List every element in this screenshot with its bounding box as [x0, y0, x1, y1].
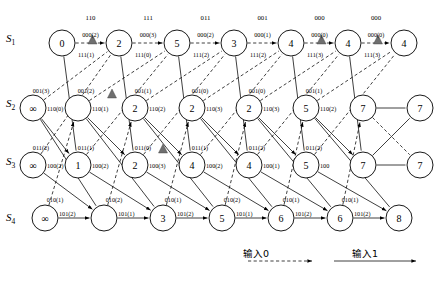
edge-label-row2-upper: 001(0)	[192, 87, 209, 95]
stage-received-bits: 110	[86, 14, 97, 21]
trellis-node: 2	[236, 95, 262, 121]
trellis-node: 7	[350, 95, 376, 121]
trellis-node: 7	[407, 95, 433, 121]
edge-label-row1-lower: 111(3)	[364, 51, 380, 59]
node-metric-value: 3	[161, 213, 166, 224]
edge-label-row1-upper: 000(2)	[197, 31, 214, 39]
survivor-path-marker	[108, 89, 117, 98]
trellis-node: ∞	[20, 95, 46, 121]
legend-input0-label: 输入0	[243, 246, 269, 260]
edge-label-row4-lower: 101(2)	[295, 210, 312, 218]
edge-label-row3-lower: 100(3)	[149, 162, 166, 170]
edge-label-row1-upper: 000(3)	[140, 31, 157, 39]
edge-label-row4-upper: 010(1)	[47, 196, 64, 204]
trellis-node: 5	[293, 95, 319, 121]
node-metric-value: 4	[346, 38, 351, 49]
edge-label-row3-lower: 100	[320, 162, 329, 169]
edge-label-row1-upper: 000(0)	[311, 31, 328, 39]
node-metric-value: 2	[117, 38, 122, 49]
edge-label-row2-upper: 001(2)	[78, 87, 95, 95]
trellis-node: 2	[179, 95, 205, 121]
edge-label-row3-upper: 011(2)	[306, 144, 322, 152]
trellis-node: 4	[236, 152, 262, 178]
node-metric-value: 5	[175, 38, 180, 49]
trellis-edges	[40, 43, 409, 218]
node-metric-value: 4	[402, 38, 407, 49]
edge-label-row4-lower: 101(2)	[177, 210, 194, 218]
edge-label-row3-upper: 011(1)	[192, 144, 208, 152]
stage-received-bits: 000	[314, 14, 325, 21]
trellis-node: 2	[106, 30, 132, 56]
trellis-edge-input0	[44, 52, 108, 100]
edge-label-row1-lower: 111(3)	[307, 51, 323, 59]
trellis-node: ∞	[20, 152, 46, 178]
node-metric-value: 4	[289, 38, 294, 49]
edge-label-row1-upper: 000(2)	[82, 31, 99, 39]
trellis-node: 4	[179, 152, 205, 178]
trellis-edge-input1	[44, 173, 93, 209]
trellis-node: 3	[150, 205, 176, 231]
node-metric-value: ∞	[29, 103, 36, 114]
edge-label-row2-upper: 001(1)	[306, 87, 323, 95]
edge-label-row4-lower: 101(2)	[59, 210, 76, 218]
edge-label-row3-upper: 011(2)	[33, 144, 49, 152]
trellis-edge-input0	[203, 51, 279, 101]
trellis-node: 6	[268, 205, 294, 231]
edge-label-row2-lower: 110(3)	[263, 105, 279, 113]
trellis-edge-input1	[90, 172, 151, 210]
trellis-node: 2	[122, 152, 148, 178]
trellis-edge-input0	[146, 51, 222, 101]
trellis-node: 0	[49, 30, 75, 56]
trellis-edge-input0	[317, 51, 392, 101]
edge-label-row3-upper: 011(1)	[78, 144, 94, 152]
trellis-node: 4	[335, 30, 361, 56]
stage-received-bits: 111	[143, 14, 153, 21]
node-metric-value: 2	[190, 103, 195, 114]
edge-label-row1-upper: 000(1)	[254, 31, 271, 39]
trellis-node: 5	[209, 205, 235, 231]
stage-received-bits: 000	[371, 14, 382, 21]
edge-label-row2-upper: 001(0)	[249, 87, 266, 95]
edge-label-row4-upper: 010(1)	[342, 196, 359, 204]
edge-label-row3-upper: 011(0)	[135, 144, 151, 152]
trellis-diagram-figure: S1 S2 S3 S4 0253444∞222577∞1244577∞35668…	[0, 0, 437, 286]
trellis-node: 7	[350, 152, 376, 178]
edge-label-row2-lower: 110(2)	[320, 105, 336, 113]
trellis-node: 3	[221, 30, 247, 56]
edge-label-row3-upper: 011(2)	[249, 144, 265, 152]
trellis-node	[65, 95, 91, 121]
edge-label-row3-lower: 100(2)	[47, 162, 64, 170]
stage-top-labels: 110111011001000000	[86, 14, 382, 21]
node-metric-value: 4	[247, 160, 252, 171]
survivor-path-marker	[159, 144, 168, 153]
trellis-edge-input0	[89, 51, 165, 101]
edge-label-row3-lower: 100(1)	[263, 162, 280, 170]
edge-label-row1-upper: 000(0)	[368, 31, 385, 39]
node-metric-value: 3	[232, 38, 237, 49]
edge-label-row1-lower: 111(1)	[78, 51, 94, 59]
trellis-edge-input1	[147, 172, 210, 211]
edge-label-row2-upper: 001(1)	[135, 87, 152, 95]
trellis-edge-input0	[373, 118, 410, 155]
node-metric-value: 2	[133, 103, 138, 114]
edge-label-row2-lower: 110(0)	[47, 105, 63, 113]
node-metric-value: 7	[361, 160, 366, 171]
legend-input1-label: 输入1	[352, 246, 378, 260]
node-metric-value: 7	[418, 103, 423, 114]
edge-label-row1-lower: 111(2)	[193, 51, 209, 59]
node-metric-value: 5	[304, 160, 309, 171]
trellis-node: 6	[327, 205, 353, 231]
node-metric-value: 8	[397, 213, 402, 224]
node-metric-value: ∞	[41, 213, 48, 224]
edge-label-row2-upper: 001(3)	[33, 87, 50, 95]
trellis-node: 8	[386, 205, 412, 231]
trellis-node: ∞	[32, 205, 58, 231]
trellis-edge-input0	[260, 51, 336, 101]
node-metric-value: 6	[279, 213, 284, 224]
node-metric-value: 4	[190, 160, 195, 171]
node-metric-value: 1	[76, 160, 81, 171]
node-metric-value: 7	[418, 160, 423, 171]
trellis-node	[91, 205, 117, 231]
edge-label-row2-lower: 110(1)	[92, 105, 108, 113]
trellis-node: 2	[122, 95, 148, 121]
